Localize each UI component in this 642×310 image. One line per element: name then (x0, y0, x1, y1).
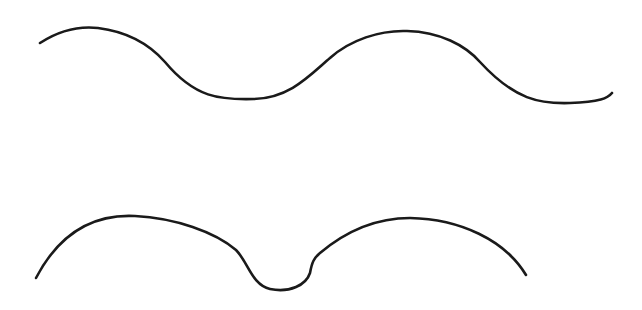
double-arch-curve (36, 216, 526, 290)
figure-canvas (0, 0, 642, 310)
wave-curve (40, 28, 612, 104)
curves-drawing (0, 0, 642, 310)
